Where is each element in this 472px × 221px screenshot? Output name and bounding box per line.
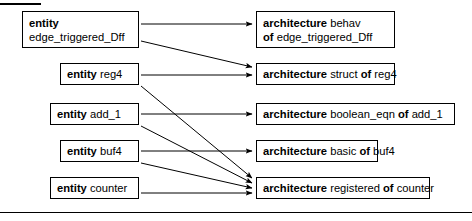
architecture-node-struct-reg4[interactable]: architecture struct of reg4 [256, 63, 395, 85]
architecture-keyword: architecture [263, 68, 327, 80]
arrow-add1-to-registered [141, 126, 252, 183]
entity-name: counter [87, 182, 127, 194]
architecture-line-1: architecture basic of buf4 [263, 144, 371, 158]
architecture-line-1: architecture registered of counter [263, 181, 423, 195]
entity-node-edge-triggered-dff[interactable]: entity edge_triggered_Dff [22, 11, 139, 48]
of-keyword: of [359, 145, 370, 157]
of-keyword: of [263, 31, 274, 43]
entity-keyword: entity [57, 108, 87, 120]
entity-node-add-1[interactable]: entity add_1 [50, 103, 139, 125]
entity-keyword: entity [67, 68, 97, 80]
entity-keyword: entity [29, 17, 59, 29]
entity-line-1: entity buf4 [67, 144, 132, 158]
architecture-line-1: architecture struct of reg4 [263, 67, 388, 81]
architecture-node-boolean-eqn-add-1[interactable]: architecture boolean_eqn of add_1 [256, 103, 455, 125]
entity-line-1: entity counter [57, 181, 132, 195]
of-keyword: of [398, 108, 409, 120]
architecture-entity-name: buf4 [370, 145, 395, 157]
arrow-dff-to-struct [141, 41, 252, 67]
of-keyword: of [361, 68, 372, 80]
entity-line-2: edge_triggered_Dff [29, 30, 132, 44]
architecture-node-behav-dff[interactable]: architecture behav of edge_triggered_Dff [256, 11, 395, 48]
entity-line-1: entity reg4 [67, 67, 132, 81]
architecture-keyword: architecture [263, 108, 327, 120]
entity-keyword: entity [67, 145, 97, 157]
architecture-name: basic [327, 145, 359, 157]
of-keyword: of [383, 182, 394, 194]
architecture-entity-name: counter [394, 182, 434, 194]
entity-line-1: entity add_1 [57, 107, 132, 121]
architecture-line-1: architecture boolean_eqn of add_1 [263, 107, 448, 121]
architecture-entity-name: add_1 [409, 108, 443, 120]
architecture-line-1: architecture behav [263, 16, 388, 30]
entity-name: buf4 [97, 145, 122, 157]
entity-name: add_1 [87, 108, 121, 120]
entity-name: reg4 [97, 68, 123, 80]
architecture-entity-name: edge_triggered_Dff [274, 31, 373, 43]
vhdl-entity-architecture-diagram: entity edge_triggered_Dff entity reg4 en… [0, 0, 472, 221]
entity-node-reg4[interactable]: entity reg4 [60, 63, 139, 85]
architecture-name: behav [327, 17, 361, 29]
architecture-name: struct [327, 68, 361, 80]
arrow-buf4-to-registered [141, 163, 252, 188]
entity-name: edge_triggered_Dff [29, 31, 125, 43]
entity-node-counter[interactable]: entity counter [50, 177, 139, 199]
entity-line-1: entity [29, 16, 132, 30]
entity-node-buf4[interactable]: entity buf4 [60, 140, 139, 162]
architecture-node-basic-buf4[interactable]: architecture basic of buf4 [256, 140, 378, 162]
arrow-reg4-to-registered [141, 86, 252, 178]
entity-keyword: entity [57, 182, 87, 194]
architecture-keyword: architecture [263, 17, 327, 29]
architecture-name: registered [327, 182, 383, 194]
architecture-keyword: architecture [263, 182, 327, 194]
architecture-keyword: architecture [263, 145, 327, 157]
top-divider-rule [0, 3, 41, 5]
architecture-line-2: of edge_triggered_Dff [263, 30, 388, 44]
bottom-divider-rule [0, 212, 472, 213]
architecture-entity-name: reg4 [371, 68, 397, 80]
architecture-node-registered-counter[interactable]: architecture registered of counter [256, 177, 430, 199]
architecture-name: boolean_eqn [327, 108, 398, 120]
